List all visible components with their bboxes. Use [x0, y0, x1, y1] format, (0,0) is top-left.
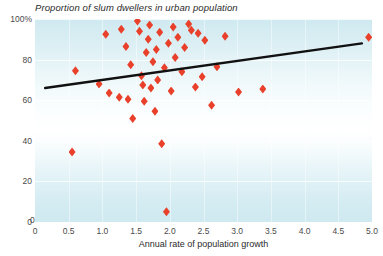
data-point [151, 107, 158, 116]
data-point [168, 87, 175, 96]
gridline-vertical [237, 19, 238, 222]
data-point [153, 45, 160, 54]
data-point [141, 97, 148, 106]
gridline-vertical [102, 19, 103, 222]
y-axis-origin-label: 0 [30, 215, 35, 225]
data-point [365, 33, 372, 42]
data-point [147, 84, 154, 93]
x-axis-tick-label: 3.0 [231, 226, 243, 236]
data-point [259, 85, 266, 94]
y-axis-tick-label: 0 [0, 217, 32, 227]
data-point [222, 32, 229, 41]
data-point [235, 88, 242, 97]
data-point [172, 53, 179, 62]
y-axis-tick-label: 80 [0, 55, 32, 65]
gridline-vertical [69, 19, 70, 222]
x-axis-label: Annual rate of population growth [35, 239, 372, 249]
y-axis-tick-label: 60 [0, 95, 32, 105]
gridline-vertical [271, 19, 272, 222]
data-point [208, 101, 215, 110]
data-point [195, 29, 202, 38]
data-point [165, 39, 172, 48]
data-point [143, 48, 150, 57]
data-point [149, 57, 156, 66]
data-point [125, 95, 132, 104]
data-point [156, 28, 163, 37]
data-point [139, 80, 146, 89]
x-axis-tick-label: 2.0 [164, 226, 176, 236]
x-axis-tick-label: 4.5 [332, 226, 344, 236]
x-axis-tick-label: 4.0 [299, 226, 311, 236]
data-point [134, 19, 141, 26]
y-axis-tick-label: 100% [0, 14, 32, 24]
x-axis-tick-label: 3.5 [265, 226, 277, 236]
data-point [199, 72, 206, 81]
data-point [72, 66, 79, 75]
data-point [138, 71, 145, 80]
data-point [161, 63, 168, 72]
data-point [146, 21, 153, 30]
gridline-vertical [170, 19, 171, 222]
scatter-chart: Proportion of slum dwellers in urban pop… [0, 0, 383, 256]
x-axis-tick-label: 1.0 [96, 226, 108, 236]
y-axis-tick-label: 40 [0, 136, 32, 146]
data-point [154, 75, 161, 84]
gridline-vertical [338, 19, 339, 222]
x-axis-tick-label: 1.5 [130, 226, 142, 236]
data-point [106, 89, 113, 98]
x-axis-tick-label: 0 [33, 226, 38, 236]
data-point [118, 25, 125, 34]
x-axis-tick-label: 2.5 [198, 226, 210, 236]
data-point [127, 60, 134, 69]
data-point [145, 35, 152, 44]
gridline-vertical [204, 19, 205, 222]
chart-title: Proportion of slum dwellers in urban pop… [35, 2, 238, 13]
y-axis-tick-label: 20 [0, 176, 32, 186]
plot-area [35, 19, 372, 222]
data-point [181, 43, 188, 52]
data-point [174, 33, 181, 42]
x-axis-tick-label: 0.5 [63, 226, 75, 236]
gridline-vertical [305, 19, 306, 222]
x-axis-tick-label: 5.0 [366, 226, 378, 236]
data-point [178, 67, 185, 76]
gridline-vertical [136, 19, 137, 222]
data-point [201, 36, 208, 45]
data-point [213, 62, 220, 71]
data-point [192, 83, 199, 92]
data-point [122, 42, 129, 51]
